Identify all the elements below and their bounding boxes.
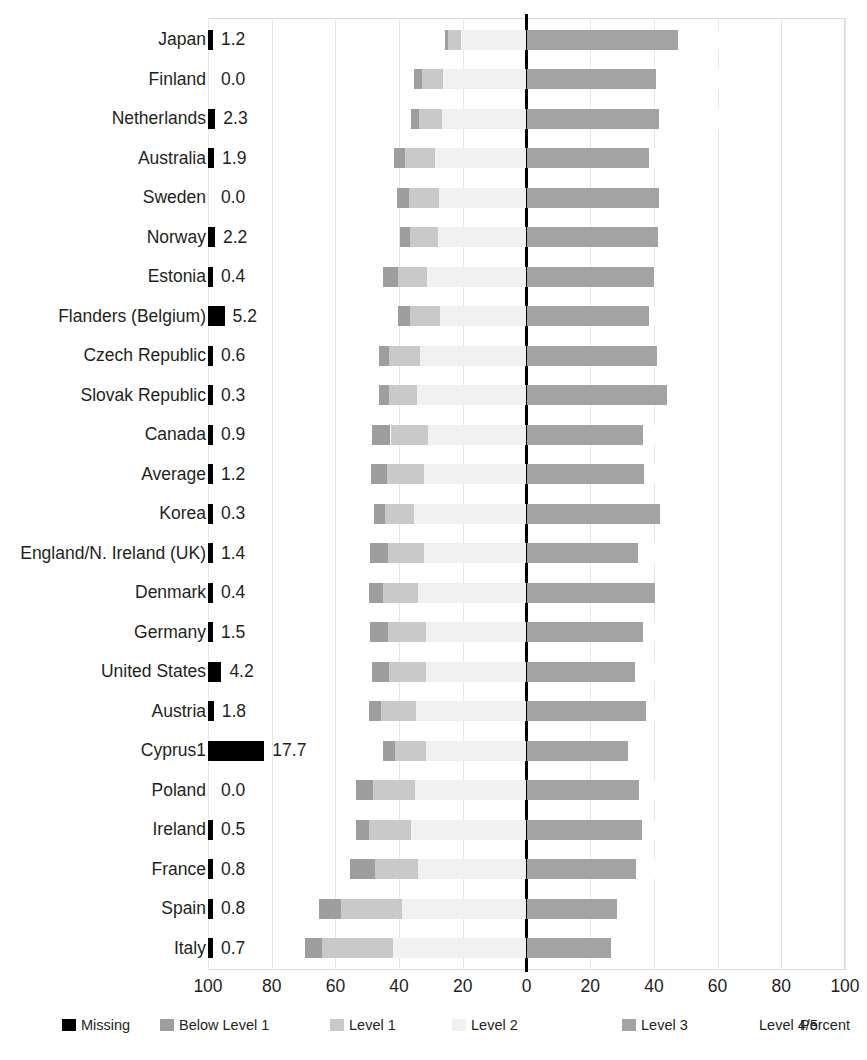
segment-level-3 — [527, 306, 650, 326]
legend-item[interactable]: Level 3 — [622, 1012, 688, 1038]
legend-item[interactable]: Level 2 — [452, 1012, 518, 1038]
segment-level-1 — [395, 741, 427, 761]
bar-band: 0.4 — [0, 573, 867, 612]
segment-level-2 — [426, 622, 526, 642]
segment-level-1 — [322, 938, 393, 958]
segment-level-1 — [391, 425, 429, 445]
segment-missing — [208, 109, 215, 129]
segment-below-level-1 — [374, 504, 385, 524]
legend-label: Level 2 — [471, 1017, 518, 1033]
segment-below-level-1 — [379, 346, 389, 366]
segment-level-4-5 — [659, 109, 722, 129]
x-tick-label: 60 — [305, 976, 365, 997]
bar-row: Czech Republic0.6 — [0, 336, 867, 375]
segment-level-1 — [387, 464, 424, 484]
x-tick-label: 100 — [178, 976, 238, 997]
missing-value-label: 0.3 — [221, 494, 245, 533]
segment-level-3 — [527, 227, 659, 247]
segment-missing — [208, 938, 213, 958]
missing-value-label: 0.0 — [221, 60, 245, 99]
segment-level-4-5 — [636, 859, 666, 879]
segment-level-4-5 — [659, 188, 716, 208]
segment-level-4-5 — [649, 306, 700, 326]
segment-level-3 — [527, 701, 646, 721]
bar-band: 1.2 — [0, 455, 867, 494]
legend-item[interactable]: Missing — [62, 1012, 130, 1038]
legend-item[interactable]: Below Level 1 — [160, 1012, 269, 1038]
segment-level-4-5 — [660, 504, 692, 524]
bar-band: 0.7 — [0, 929, 867, 968]
segment-missing — [208, 820, 213, 840]
segment-level-2 — [439, 188, 526, 208]
segment-level-4-5 — [638, 543, 684, 563]
bar-band: 2.2 — [0, 218, 867, 257]
legend-swatch-icon — [330, 1019, 344, 1031]
x-tick-label: 0 — [497, 976, 557, 997]
segment-level-2 — [440, 306, 526, 326]
segment-level-1 — [373, 780, 415, 800]
segment-level-3 — [527, 938, 611, 958]
bar-row: Norway2.2 — [0, 218, 867, 257]
missing-value-label: 5.2 — [233, 297, 257, 336]
segment-level-2 — [418, 859, 527, 879]
bar-row: England/N. Ireland (UK)1.4 — [0, 534, 867, 573]
segment-level-1 — [389, 346, 421, 366]
segment-level-2 — [418, 583, 526, 603]
segment-level-4-5 — [655, 583, 687, 603]
legend-swatch-icon — [452, 1019, 466, 1031]
segment-level-2 — [461, 30, 527, 50]
segment-below-level-1 — [319, 899, 342, 919]
segment-level-3 — [527, 69, 656, 89]
legend-swatch-icon — [160, 1019, 174, 1031]
missing-value-label: 0.5 — [221, 810, 245, 849]
segment-level-3 — [527, 148, 650, 168]
missing-value-label: 0.0 — [221, 771, 245, 810]
bar-row: Flanders (Belgium)5.2 — [0, 297, 867, 336]
segment-level-3 — [527, 267, 654, 287]
segment-level-1 — [409, 188, 439, 208]
segment-level-3 — [527, 583, 655, 603]
segment-level-4-5 — [611, 938, 622, 958]
x-tick-label: 40 — [369, 976, 429, 997]
segment-below-level-1 — [372, 425, 390, 445]
bar-row: Spain0.8 — [0, 889, 867, 928]
segment-level-2 — [411, 820, 527, 840]
bar-row: Germany1.5 — [0, 613, 867, 652]
segment-below-level-1 — [445, 30, 449, 50]
missing-value-label: 0.6 — [221, 336, 245, 375]
missing-value-label: 0.8 — [221, 850, 245, 889]
segment-level-2 — [426, 662, 526, 682]
segment-below-level-1 — [400, 227, 410, 247]
segment-level-1 — [389, 385, 417, 405]
bar-row: Japan1.2 — [0, 20, 867, 59]
bar-row: Estonia0.4 — [0, 257, 867, 296]
missing-value-label: 0.4 — [221, 257, 245, 296]
segment-missing — [208, 464, 213, 484]
bar-band: 1.2 — [0, 20, 867, 59]
segment-level-2 — [393, 938, 527, 958]
missing-value-label: 1.5 — [221, 613, 245, 652]
segment-level-4-5 — [646, 701, 681, 721]
segment-below-level-1 — [383, 267, 399, 287]
segment-missing — [208, 662, 221, 682]
segment-level-1 — [410, 306, 441, 326]
legend-item[interactable]: Level 1 — [330, 1012, 396, 1038]
segment-level-2 — [428, 425, 526, 445]
segment-level-2 — [426, 741, 526, 761]
missing-value-label: 0.8 — [221, 889, 245, 928]
legend-swatch-icon — [740, 1019, 754, 1031]
missing-value-label: 0.7 — [221, 929, 245, 968]
missing-value-label: 1.8 — [222, 692, 246, 731]
bar-row: Average1.2 — [0, 455, 867, 494]
bar-band: 4.2 — [0, 652, 867, 691]
segment-level-1 — [385, 504, 414, 524]
segment-level-4-5 — [643, 622, 684, 642]
missing-value-label: 0.9 — [221, 415, 245, 454]
segment-level-1 — [389, 662, 427, 682]
bar-row: Netherlands2.3 — [0, 99, 867, 138]
bar-band: 1.8 — [0, 692, 867, 731]
bar-band: 0.5 — [0, 810, 867, 849]
legend-label: Missing — [81, 1017, 130, 1033]
segment-level-4-5 — [678, 30, 759, 50]
missing-value-label: 4.2 — [229, 652, 253, 691]
